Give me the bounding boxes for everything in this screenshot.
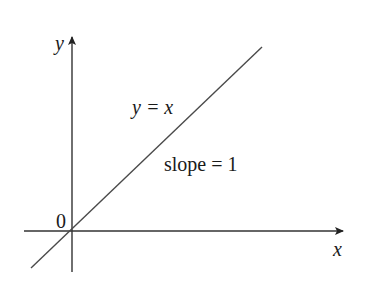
y-axis-label: y — [55, 33, 64, 53]
slope-label: slope = 1 — [164, 154, 238, 174]
origin-label: 0 — [56, 211, 66, 231]
equation-label: y = x — [132, 97, 173, 117]
x-axis-label: x — [333, 239, 342, 259]
graph-figure: y y = x slope = 1 0 x — [0, 0, 367, 289]
